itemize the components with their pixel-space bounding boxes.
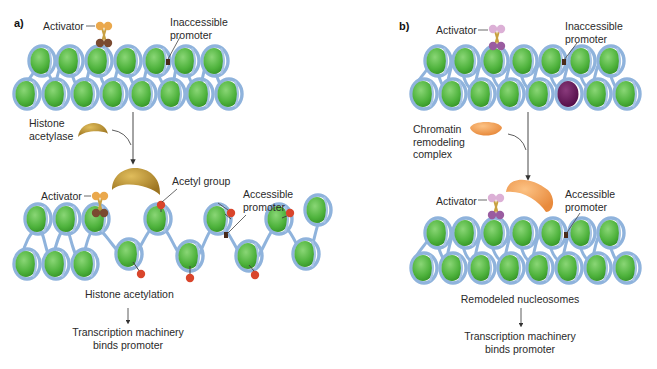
promoter-mark	[224, 232, 228, 238]
accessible-promoter-label: Accessible promoter	[565, 188, 615, 213]
activator-label: Activator	[436, 195, 477, 208]
panel-a-condensed-chromatin	[14, 46, 242, 109]
panel-a-letter: a)	[14, 17, 24, 29]
panel-b-remodeled-chromatin	[411, 218, 640, 283]
transcription-result-label: Transcription machinery binds promoter	[464, 330, 576, 355]
panel-b-letter: b)	[399, 20, 409, 32]
activator-a-top	[86, 22, 112, 47]
activator-label: Activator	[41, 190, 82, 203]
transcription-result-label: Transcription machinery binds promoter	[72, 326, 184, 351]
inaccessible-promoter-label: Inaccessible promoter	[565, 20, 623, 45]
chromatin-diagram	[0, 0, 657, 369]
activator-label: Activator	[43, 20, 84, 33]
activator-label: Activator	[436, 24, 477, 37]
activator-b-bottom	[478, 194, 504, 219]
histone-acetylase-bound-icon	[112, 168, 160, 195]
chromatin-remodeling-complex-icon	[470, 122, 502, 136]
inaccessible-promoter-label: Inaccessible promoter	[170, 16, 228, 41]
chromatin-remodeling-complex-bound-icon	[506, 180, 553, 212]
accessible-promoter-label: Accessible promoter	[243, 188, 293, 213]
remodeled-nucleosomes-label: Remodeled nucleosomes	[461, 293, 579, 306]
acetyl-group-label: Acetyl group	[172, 175, 230, 188]
activator-b-top	[478, 25, 505, 50]
panel-b-condensed-chromatin	[411, 46, 640, 109]
histone-acetylation-label: Histone acetylation	[85, 288, 174, 301]
histone-acetylase-icon	[78, 123, 108, 137]
promoter-mark	[166, 59, 170, 65]
histone-acetylase-label: Histone acetylase	[29, 117, 73, 142]
chromatin-remodeling-complex-label: Chromatin remodeling complex	[413, 123, 465, 161]
promoter-mark	[564, 232, 568, 238]
